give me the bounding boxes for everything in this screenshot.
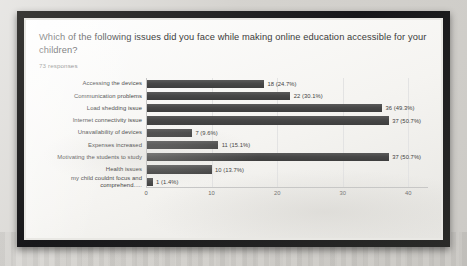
bar-value-label: 7 (9.6%) [195,130,217,136]
bar-category-label: Motivating the students to study [39,154,146,161]
bar-value-label: 18 (24.7%) [268,81,297,87]
bar-track: 22 (30.1%) [146,90,428,102]
bar-row: Accessing the devices18 (24.7%) [39,78,428,90]
x-tick-label: 20 [274,190,280,196]
x-axis-ticks: 010203040 [146,188,428,200]
bar-fill[interactable] [146,141,218,149]
y-axis-line [146,78,147,188]
x-tick-label: 0 [144,190,147,196]
bar-fill[interactable] [146,92,290,100]
x-tick-label: 40 [405,190,411,196]
bar-value-label: 37 (50.7%) [392,118,421,124]
bar-value-label: 10 (13.7%) [215,167,244,173]
bar-track: 18 (24.7%) [146,78,428,90]
bar-value-label: 36 (49.3%) [386,105,415,111]
bar-value-label: 37 (50.7%) [392,154,421,160]
bar-category-label: Expenses increased [39,142,146,149]
bar-row: Unavailability of devices7 (9.6%) [39,127,428,139]
x-tick-label: 10 [208,190,214,196]
frame-inner-bevel: Which of the following issues did you fa… [24,18,443,240]
bar-track: 36 (49.3%) [146,102,428,114]
bar-category-label: Health issues [39,166,146,173]
bar-value-label: 11 (15.1%) [222,142,251,148]
bar-chart: Accessing the devices18 (24.7%)Communica… [39,78,428,200]
bar-fill[interactable] [146,129,192,137]
bar-track: 37 (50.7%) [146,115,428,127]
bar-track: 7 (9.6%) [146,127,428,139]
bar-row: Communication problems22 (30.1%) [39,90,428,102]
bar-row: Health issues10 (13.7%) [39,164,428,176]
bar-track: 10 (13.7%) [146,164,428,176]
bar-fill[interactable] [146,153,389,161]
x-tick-label: 30 [340,190,346,196]
bar-category-label: Communication problems [39,93,146,100]
bar-row: Internet connectivity issue37 (50.7%) [39,115,428,127]
bar-fill[interactable] [146,104,382,112]
bar-fill[interactable] [146,165,212,173]
bar-row: Expenses increased11 (15.1%) [39,139,428,151]
bar-value-label: 22 (30.1%) [294,93,323,99]
bar-category-label: Accessing the devices [39,80,146,87]
responses-count: 73 responses [39,62,428,69]
bar-category-label: Internet connectivity issue [39,117,146,124]
bar-rows-container: Accessing the devices18 (24.7%)Communica… [39,78,428,188]
bar-category-label: Load shedding issue [39,105,146,112]
bar-category-label: Unavailability of devices [39,129,146,136]
bar-category-label: my child couldnt focus and comprehend...… [39,175,146,189]
bar-track: 11 (15.1%) [146,139,428,151]
bar-row: Load shedding issue36 (49.3%) [39,102,428,114]
picture-frame: Which of the following issues did you fa… [17,11,450,247]
bar-value-label: 1 (1.4%) [156,179,178,185]
bar-track: 37 (50.7%) [146,151,428,163]
page-title: Which of the following issues did you fa… [39,31,428,58]
bar-row: Motivating the students to study37 (50.7… [39,151,428,163]
survey-result-card: Which of the following issues did you fa… [26,20,441,238]
bar-fill[interactable] [146,116,389,124]
bar-fill[interactable] [146,80,264,88]
